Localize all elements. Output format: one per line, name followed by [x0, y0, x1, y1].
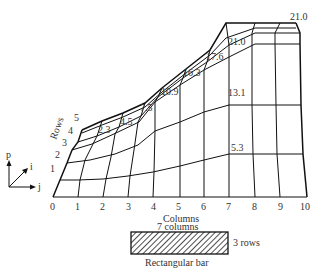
svg-text:4: 4: [151, 201, 156, 212]
svg-text:17.6: 17.6: [206, 51, 224, 62]
column-ticks: 0 1 2 3 4 5 6 7 8 9 10: [50, 201, 310, 212]
svg-text:i: i: [30, 161, 33, 172]
svg-text:9: 9: [278, 201, 283, 212]
svg-text:5.3: 5.3: [231, 142, 244, 153]
arrow-up-icon: [7, 160, 12, 166]
arrow-right-icon: [30, 185, 36, 190]
svg-text:3: 3: [126, 201, 131, 212]
svg-text:13.1: 13.1: [228, 87, 246, 98]
svg-text:1: 1: [75, 201, 80, 212]
svg-text:10.9: 10.9: [161, 86, 179, 97]
svg-text:21.0: 21.0: [228, 36, 246, 47]
svg-text:8: 8: [252, 201, 257, 212]
svg-text:2: 2: [100, 201, 105, 212]
svg-text:7.5: 7.5: [140, 102, 153, 113]
svg-text:p: p: [6, 149, 11, 160]
svg-text:21.0: 21.0: [290, 11, 308, 22]
pressure-mesh-diagram: 1 2 3 4 5 Rows 0 1 2 3 4 5 6 7 8 9 10 Co…: [0, 0, 317, 278]
svg-text:1: 1: [50, 163, 55, 174]
svg-text:3 rows: 3 rows: [233, 237, 260, 248]
svg-text:7 columns: 7 columns: [157, 221, 198, 232]
svg-text:4: 4: [68, 125, 73, 136]
svg-text:10: 10: [300, 201, 310, 212]
svg-text:2: 2: [55, 149, 60, 160]
rectangular-bar: 7 columns 3 rows Rectangular bar: [131, 221, 260, 268]
coordinate-axes: p i j: [6, 149, 41, 192]
svg-text:0: 0: [50, 201, 55, 212]
svg-text:2.3: 2.3: [98, 124, 111, 135]
svg-text:Rectangular bar: Rectangular bar: [145, 257, 209, 268]
svg-text:5: 5: [176, 201, 181, 212]
svg-text:6: 6: [201, 201, 206, 212]
svg-text:7: 7: [226, 201, 231, 212]
mesh-grid: [53, 23, 307, 197]
svg-text:5: 5: [74, 112, 79, 123]
svg-text:3: 3: [62, 137, 67, 148]
svg-text:j: j: [37, 181, 41, 192]
svg-text:4.5: 4.5: [120, 116, 133, 127]
svg-text:16.3: 16.3: [183, 67, 201, 78]
